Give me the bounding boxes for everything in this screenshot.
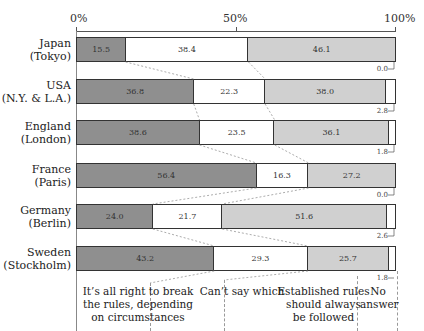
row-label-line: Japan [0, 37, 71, 50]
row-label: USA(N.Y. & L.A.) [0, 79, 71, 105]
bar-segment: 43.2 [77, 247, 214, 270]
x-tick-100: 100% [384, 12, 415, 25]
legend-text: No [360, 285, 396, 298]
legend-text: the rules, depending [78, 298, 198, 311]
row-label-line: (N.Y. & L.A.) [0, 92, 71, 105]
legend-text: answer [360, 298, 396, 311]
bar-segment: 38.6 [77, 121, 200, 144]
bar-segment [389, 247, 395, 270]
row-label-line: Germany [0, 204, 71, 217]
x-tick-50: 50% [223, 12, 247, 25]
no-answer-value: 1.8 [377, 148, 388, 156]
bar-segment [387, 205, 395, 228]
no-answer-value: 0.0 [377, 191, 388, 199]
row-label: England(London) [0, 120, 71, 146]
bar-segment: 46.1 [248, 38, 395, 61]
bar-segment: 21.7 [153, 205, 222, 228]
legend-no-answer: No answer [360, 285, 396, 311]
row-label-line: (Tokyo) [0, 50, 71, 63]
tick [395, 27, 396, 32]
row-label-line: Sweden [0, 246, 71, 259]
legend-text: on circumstances [78, 311, 198, 324]
row-label-line: (London) [0, 133, 71, 146]
row-label-line: (Stockholm) [0, 259, 71, 272]
row-label-line: USA [0, 79, 71, 92]
bar-segment: 29.3 [214, 247, 307, 270]
bar-segment: 38.4 [126, 38, 248, 61]
legend-text: Established rules [276, 285, 371, 298]
stacked-bar: 43.229.325.7 [76, 246, 396, 271]
bar-segment: 25.7 [308, 247, 390, 270]
bar-segment [386, 80, 395, 103]
bar-segment: 27.2 [308, 164, 395, 187]
bar-segment: 56.4 [77, 164, 257, 187]
row-label: Japan(Tokyo) [0, 37, 71, 63]
legend-text: be followed [276, 311, 371, 324]
no-answer-value: 2.6 [377, 232, 388, 240]
legend-text: should always [276, 298, 371, 311]
stacked-bar: 15.538.446.1 [76, 37, 396, 62]
bar-segment: 24.0 [77, 205, 153, 228]
legend-break-rules: It’s all right to break the rules, depen… [78, 285, 198, 324]
bar-segment: 15.5 [77, 38, 126, 61]
no-answer-value: 0.0 [377, 65, 388, 73]
bar-segment: 36.1 [274, 121, 389, 144]
bar-segment: 23.5 [200, 121, 275, 144]
bar-segment: 22.3 [194, 80, 265, 103]
bar-segment: 16.3 [257, 164, 309, 187]
stacked-bar: 56.416.327.2 [76, 163, 396, 188]
row-label-line: (Paris) [0, 176, 71, 189]
stacked-bar: 24.021.751.6 [76, 204, 396, 229]
legend-text: It’s all right to break [78, 285, 198, 298]
no-answer-value: 2.8 [377, 107, 388, 115]
row-label: France(Paris) [0, 163, 71, 189]
stacked-bar: 36.822.338.0 [76, 79, 396, 104]
bar-segment [389, 121, 395, 144]
no-answer-value: 1.8 [377, 274, 388, 282]
row-label-line: England [0, 120, 71, 133]
row-label: Sweden(Stockholm) [0, 246, 71, 272]
tick [236, 27, 237, 32]
row-label: Germany(Berlin) [0, 204, 71, 230]
bar-segment: 38.0 [265, 80, 386, 103]
row-label-line: France [0, 163, 71, 176]
bar-segment: 36.8 [77, 80, 194, 103]
x-tick-0: 0% [70, 12, 87, 25]
row-label-line: (Berlin) [0, 217, 71, 230]
legend-follow-rules: Established rules should always be follo… [276, 285, 371, 324]
stacked-bar: 38.623.536.1 [76, 120, 396, 145]
bar-segment: 51.6 [222, 205, 386, 228]
